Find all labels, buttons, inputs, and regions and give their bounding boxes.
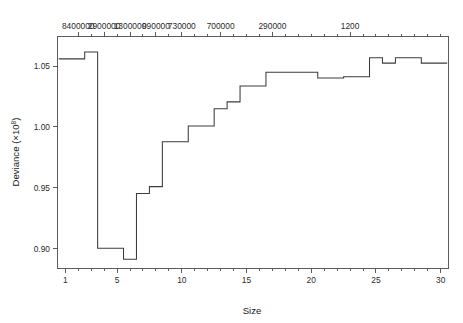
- x-axis-title: Size: [243, 305, 262, 316]
- y-tick-label: 1.00: [34, 122, 51, 132]
- top-tick-label: 700000: [207, 21, 235, 31]
- top-axis-ticks: [78, 32, 441, 37]
- x-tick-label: 5: [115, 275, 120, 285]
- x-axis-tick-labels: 151015202530: [63, 275, 446, 285]
- x-tick-label: 10: [177, 275, 187, 285]
- y-axis-tick-labels: 0.900.951.001.05: [34, 61, 51, 253]
- chart-canvas: 8400000290000013000009900007300007000002…: [0, 0, 463, 323]
- deviance-step-line: [59, 52, 447, 259]
- x-tick-label: 20: [307, 275, 317, 285]
- x-tick-label: 25: [371, 275, 381, 285]
- y-axis-title-group: Deviance (×108): [10, 117, 22, 186]
- y-axis-title-close: ): [10, 117, 21, 120]
- top-tick-label: 730000: [168, 21, 196, 31]
- top-axis-tick-labels: 8400000290000013000009900007300007000002…: [62, 21, 360, 31]
- x-tick-label: 30: [436, 275, 446, 285]
- x-axis-ticks: [65, 269, 440, 274]
- y-tick-label: 0.95: [34, 183, 51, 193]
- top-tick-label: 990000: [142, 21, 170, 31]
- y-tick-label: 1.05: [34, 61, 51, 71]
- deviance-vs-size-chart: 8400000290000013000009900007300007000002…: [0, 0, 463, 323]
- top-tick-label: 290000: [258, 21, 286, 31]
- axes-box: [58, 37, 449, 269]
- x-tick-label: 15: [242, 275, 252, 285]
- y-axis-ticks: [53, 66, 58, 248]
- plot-frame: [58, 37, 449, 269]
- top-tick-label: 1200: [341, 21, 360, 31]
- y-tick-label: 0.90: [34, 244, 51, 254]
- y-axis-title-base: Deviance (×10: [10, 124, 21, 186]
- x-tick-label: 1: [63, 275, 68, 285]
- y-axis-title: Deviance (×108): [10, 117, 22, 186]
